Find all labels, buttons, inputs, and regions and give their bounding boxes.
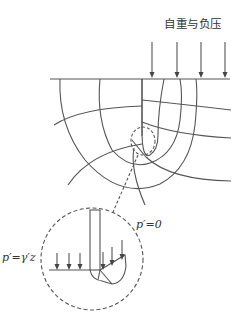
- callout-leader-line: [113, 155, 138, 212]
- detail-callout-circle: [131, 127, 155, 155]
- pressure-zero-label: p′=0: [136, 218, 162, 231]
- seepage-flow-net-diagram: [0, 0, 248, 316]
- surface-load-arrows: [152, 42, 225, 75]
- detail-magnified-view: [41, 208, 143, 310]
- pressure-gamma-z-label: p′=γ′z: [2, 251, 36, 264]
- flow-net-streamlines: [60, 79, 197, 189]
- load-label: 自重与负压: [164, 15, 222, 31]
